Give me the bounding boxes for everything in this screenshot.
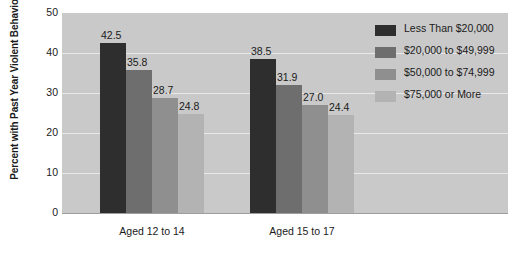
legend-color-swatch (375, 69, 396, 80)
y-axis-tick-label: 10 (32, 166, 58, 178)
y-axis-tick-label: 20 (32, 126, 58, 138)
legend-color-swatch (375, 47, 396, 58)
y-axis-tick-label: 30 (32, 86, 58, 98)
legend-label: $75,000 or More (404, 88, 481, 100)
legend-label: Less Than $20,000 (404, 22, 494, 34)
legend-color-swatch (375, 25, 396, 36)
bar (250, 59, 276, 213)
y-axis-tick-label: 50 (32, 6, 58, 18)
bar-value-label: 24.4 (329, 101, 349, 113)
bar (152, 98, 178, 213)
y-axis-tick-label: 0 (32, 206, 58, 218)
legend-color-swatch (375, 91, 396, 102)
x-axis-line (62, 213, 508, 214)
bar-value-label: 38.5 (251, 45, 271, 57)
legend-label: $50,000 to $74,999 (404, 66, 495, 78)
y-axis-tick-label: 40 (32, 46, 58, 58)
x-axis-category-label: Aged 15 to 17 (242, 225, 362, 237)
bar-value-label: 35.8 (127, 56, 147, 68)
bar-value-label: 28.7 (153, 84, 173, 96)
bar-value-label: 31.9 (277, 71, 297, 83)
bar-value-label: 24.8 (179, 100, 199, 112)
bar (302, 105, 328, 213)
plot-area: 42.535.828.724.838.531.927.024.4 (62, 13, 508, 213)
bar (328, 115, 354, 213)
bar (100, 43, 126, 213)
x-axis-category-label: Aged 12 to 14 (92, 225, 212, 237)
bar-chart: Percent with Past Year Violent Behavior … (0, 0, 521, 259)
legend-label: $20,000 to $49,999 (404, 44, 495, 56)
bar (276, 85, 302, 213)
bar (126, 70, 152, 213)
bar-value-label: 27.0 (303, 91, 323, 103)
bar-value-label: 42.5 (101, 29, 121, 41)
bar (178, 114, 204, 213)
